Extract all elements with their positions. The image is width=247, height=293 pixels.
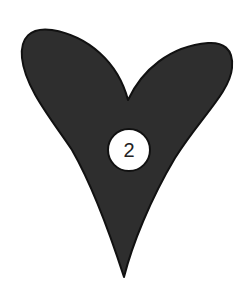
heart-figure: 2	[0, 0, 247, 293]
badge-number: 2	[123, 139, 134, 161]
